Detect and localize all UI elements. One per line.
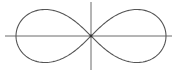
diagram-svg — [0, 0, 175, 72]
lemniscate-diagram — [0, 0, 175, 72]
origin-point — [90, 35, 93, 38]
